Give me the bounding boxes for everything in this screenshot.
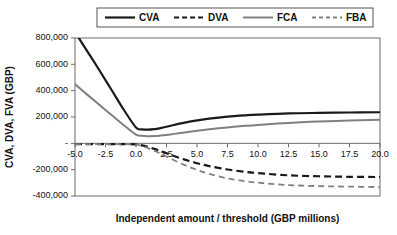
x-tick-label: 15.0 <box>310 149 328 159</box>
x-tick-label: 5.0 <box>191 149 204 159</box>
x-tick-label: 20.0 <box>371 149 389 159</box>
y-tick-label: 400,000 <box>35 85 68 95</box>
legend-label-fba: FBA <box>346 12 367 23</box>
line-chart: CVADVAFCAFBA 800,000600,000400,000200,00… <box>0 0 397 235</box>
y-tick-label: 800,000 <box>35 32 68 42</box>
y-tick-label: -400,000 <box>32 190 68 200</box>
x-tick-label: 17.5 <box>341 149 359 159</box>
legend-label-dva: DVA <box>208 12 228 23</box>
x-axis-title: Independent amount / threshold (GBP mill… <box>116 213 340 224</box>
x-tick-label: 10.0 <box>249 149 267 159</box>
x-tick-label: 7.5 <box>221 149 234 159</box>
y-axis-title: CVA, DVA, FVA (GBP) <box>4 66 15 168</box>
chart-container: CVADVAFCAFBA 800,000600,000400,000200,00… <box>0 0 397 235</box>
y-tick-label: - <box>65 138 68 148</box>
x-tick-label: -5.0 <box>67 149 83 159</box>
y-tick-label: 200,000 <box>35 111 68 121</box>
chart-legend: CVADVAFCAFBA <box>97 8 373 27</box>
legend-label-fca: FCA <box>277 12 298 23</box>
legend-label-cva: CVA <box>139 12 159 23</box>
x-tick-label: 0.0 <box>130 149 143 159</box>
y-tick-label: -200,000 <box>32 164 68 174</box>
y-tick-label: 600,000 <box>35 59 68 69</box>
x-tick-label: -2.5 <box>98 149 114 159</box>
x-tick-label: 12.5 <box>280 149 298 159</box>
